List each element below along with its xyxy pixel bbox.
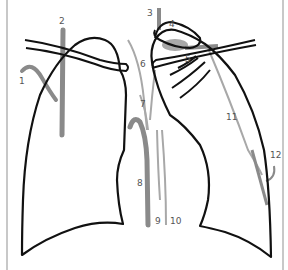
structure-10b [162,130,166,225]
structure-10a [157,130,160,200]
label-12: 12 [270,150,281,160]
diagram-frame: 1 2 3 4 5 6 7 8 9 10 11 12 [0,0,288,270]
structure-2 [62,30,63,135]
label-8: 8 [137,178,143,188]
lung-diagram: 1 2 3 4 5 6 7 8 9 10 11 12 [0,0,288,270]
label-10: 10 [170,216,182,226]
label-3: 3 [147,8,153,18]
label-4: 4 [169,19,175,29]
label-5: 5 [185,54,191,64]
label-11: 11 [226,112,237,122]
label-6: 6 [140,59,146,69]
rib-line-3 [180,70,210,98]
label-2: 2 [59,16,65,26]
structure-8-9 [130,119,148,225]
label-9: 9 [155,216,161,226]
structure-6 [128,40,147,130]
label-1: 1 [19,76,25,86]
label-7: 7 [140,99,146,109]
